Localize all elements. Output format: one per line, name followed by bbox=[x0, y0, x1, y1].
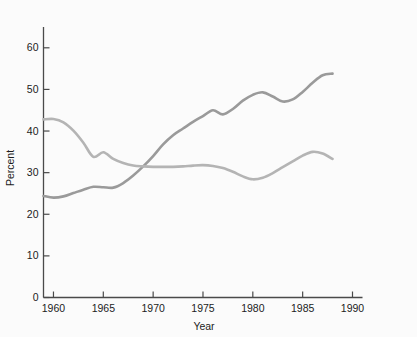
series-line-declining-series bbox=[44, 119, 333, 180]
x-tick-label: 1980 bbox=[241, 302, 265, 314]
x-tick-label: 1985 bbox=[291, 302, 315, 314]
x-axis-title: Year bbox=[193, 320, 215, 332]
x-tick-label: 1965 bbox=[92, 302, 116, 314]
y-tick-label: 30 bbox=[27, 166, 39, 178]
series-line-rising-series bbox=[44, 74, 333, 198]
y-tick-label: 40 bbox=[27, 125, 39, 137]
y-tick-label: 60 bbox=[27, 41, 39, 53]
axis-group bbox=[44, 27, 363, 298]
y-tick-label: 10 bbox=[27, 249, 39, 261]
line-chart-figure: 0102030405060 19601965197019751980198519… bbox=[0, 0, 417, 337]
y-tick-label: 20 bbox=[27, 208, 39, 220]
data-series-group bbox=[44, 74, 333, 198]
chart-plot-svg: 0102030405060 19601965197019751980198519… bbox=[0, 0, 417, 337]
x-tick-label: 1960 bbox=[42, 302, 66, 314]
x-axis-ticks: 1960196519701975198019851990 bbox=[42, 292, 365, 314]
y-tick-label: 0 bbox=[33, 291, 39, 303]
y-tick-label: 50 bbox=[27, 83, 39, 95]
x-tick-label: 1975 bbox=[191, 302, 215, 314]
y-axis-ticks: 0102030405060 bbox=[27, 41, 50, 303]
x-tick-label: 1990 bbox=[341, 302, 365, 314]
x-tick-label: 1970 bbox=[141, 302, 165, 314]
y-axis-title: Percent bbox=[4, 150, 16, 186]
